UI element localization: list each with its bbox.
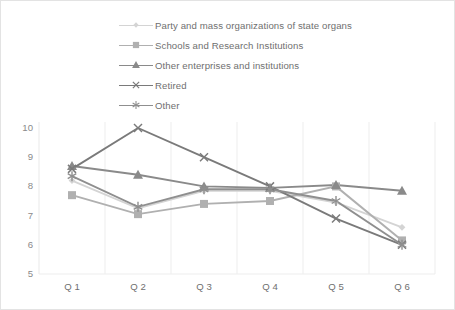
gridlines (105, 122, 369, 274)
y-axis-tick-label: 5 (11, 268, 33, 279)
x-axis-tick-label: Q 4 (245, 281, 295, 292)
x-axis-tick-label: Q 5 (311, 281, 361, 292)
x-axis-tick-label: Q 2 (113, 281, 163, 292)
plot-area: 1098765 Q 1Q 2Q 3Q 4Q 5Q 6 (1, 1, 455, 310)
data-point-marker (399, 224, 406, 231)
data-point-marker (200, 153, 208, 161)
x-axis-tick-label: Q 1 (47, 281, 97, 292)
y-axis-tick-label: 6 (11, 239, 33, 250)
x-axis-tick-label: Q 6 (377, 281, 427, 292)
chart-container: Party and mass organizations of state or… (0, 0, 455, 310)
y-axis-tick-label: 10 (11, 122, 33, 133)
x-axis-tick-label: Q 3 (179, 281, 229, 292)
plot-svg (1, 1, 455, 310)
data-point-marker (134, 124, 142, 132)
data-point-marker (68, 191, 76, 199)
y-axis-tick-label: 7 (11, 210, 33, 221)
data-point-marker (266, 197, 274, 205)
data-point-marker (332, 215, 340, 223)
data-point-marker (200, 200, 208, 208)
y-axis-tick-label: 9 (11, 151, 33, 162)
y-axis-tick-label: 8 (11, 180, 33, 191)
